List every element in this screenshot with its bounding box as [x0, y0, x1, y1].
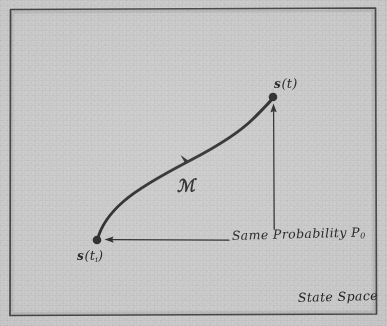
frame-inner-shade [12, 11, 374, 314]
final-state-argument: (t) [281, 76, 297, 91]
operator-label: ℳ [176, 175, 195, 196]
final-state-dot [269, 93, 278, 102]
same-probability-subscript: 0 [360, 231, 366, 240]
final-state-label: s(t) [274, 76, 297, 91]
initial-state-paren-close: ) [98, 248, 103, 263]
frame-border [10, 8, 377, 316]
initial-state-argument: (t [84, 248, 95, 263]
initial-state-label: s(ti) [77, 248, 103, 264]
state-space-caption: State Space [298, 288, 379, 305]
ink-layer [0, 0, 387, 326]
probability-leader-left [111, 240, 230, 241]
probability-leader-up [274, 110, 275, 229]
evolution-curve [98, 99, 273, 240]
initial-state-dot [93, 236, 102, 245]
same-probability-text: Same Probability P [232, 224, 361, 243]
figure-canvas: s(t) s(ti) ℳ Same Probability P0 State S… [0, 0, 387, 326]
